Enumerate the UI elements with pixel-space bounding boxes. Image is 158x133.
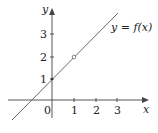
y-axis-label: y	[41, 3, 49, 16]
y-tick-label-2: 2	[40, 51, 47, 64]
open-circle-hole	[72, 55, 76, 59]
origin-label: 0	[44, 104, 51, 117]
y-tick-label-3: 3	[40, 28, 47, 41]
x-tick-label-2: 2	[93, 104, 100, 117]
y-tick-label-1: 1	[40, 73, 47, 86]
function-line	[12, 13, 118, 120]
curve-label: y = f(x)	[110, 21, 152, 34]
x-axis-label: x	[143, 103, 150, 116]
y-axis-arrow-icon	[49, 8, 55, 15]
graph: 0 1 2 3 1 2 3 x y y = f(x)	[0, 0, 158, 133]
x-tick-label-1: 1	[71, 104, 78, 117]
x-tick-label-3: 3	[114, 104, 121, 117]
point-0-1	[51, 78, 53, 80]
